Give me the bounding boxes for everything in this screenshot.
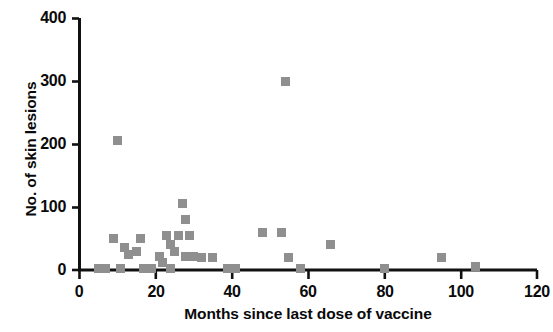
data-point (132, 247, 141, 256)
data-point (296, 264, 305, 273)
data-point (136, 234, 145, 243)
data-point (281, 77, 290, 86)
data-point (170, 247, 179, 256)
data-point (437, 253, 446, 262)
data-point (208, 253, 217, 262)
data-point (166, 264, 175, 273)
data-point (116, 264, 125, 273)
data-point (284, 253, 293, 262)
scatter-plot-figure: 400 300 200 100 0 0 20 40 60 80 100 120 … (0, 0, 553, 332)
data-point (174, 231, 183, 240)
data-point (109, 234, 118, 243)
y-tick-label-0: 0 (14, 261, 66, 279)
data-point (181, 215, 190, 224)
x-tick-label-60: 60 (288, 283, 328, 301)
data-point (380, 264, 389, 273)
data-point (178, 199, 187, 208)
data-point (162, 231, 171, 240)
y-axis-title: No. of skin lesions (22, 44, 40, 254)
x-tick-label-100: 100 (441, 283, 481, 301)
data-point (147, 264, 156, 273)
data-point (277, 228, 286, 237)
data-point (197, 253, 206, 262)
x-axis-title: Months since last dose of vaccine (79, 305, 537, 323)
x-tick-label-80: 80 (365, 283, 405, 301)
data-point (471, 262, 480, 271)
data-point (113, 136, 122, 145)
x-tick-label-120: 120 (517, 283, 553, 301)
data-point (326, 240, 335, 249)
x-tick-label-20: 20 (136, 283, 176, 301)
data-point (101, 264, 110, 273)
x-tick-label-40: 40 (212, 283, 252, 301)
data-point (258, 228, 267, 237)
data-point (185, 231, 194, 240)
y-tick-label-400: 400 (14, 9, 66, 27)
x-tick-label-0: 0 (59, 283, 99, 301)
data-point (231, 264, 240, 273)
